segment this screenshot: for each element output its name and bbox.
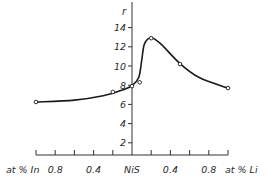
x-tick-label: 0.8 [201,164,216,175]
data-point [149,36,153,40]
data-point [178,62,182,66]
x-tick-label: 0.8 [48,164,63,175]
axes [36,2,228,155]
y-tick-label: 10 [114,61,126,72]
y-axis-label: r [122,6,127,17]
y-tick-label: 6 [120,99,126,110]
y-tick-label: 2 [120,137,126,148]
data-point [34,100,38,104]
data-point [111,90,115,94]
chart: 0.80.40.40.8 2468101214 r at % In NiS at… [0,0,274,188]
y-ticks: 2468101214 [114,22,132,148]
y-tick-label: 12 [114,41,126,52]
x-axis-label-li: at % Li [225,164,258,175]
x-tick-label: 0.4 [86,164,101,175]
x-axis-label-nis: NiS [124,164,140,175]
x-axis-label-in: at % In [6,164,39,175]
data-point [138,81,142,85]
data-point [130,84,134,88]
x-tick-label: 0.4 [163,164,178,175]
y-tick-label: 14 [114,22,126,33]
data-point [226,86,230,90]
y-tick-label: 4 [120,118,126,129]
